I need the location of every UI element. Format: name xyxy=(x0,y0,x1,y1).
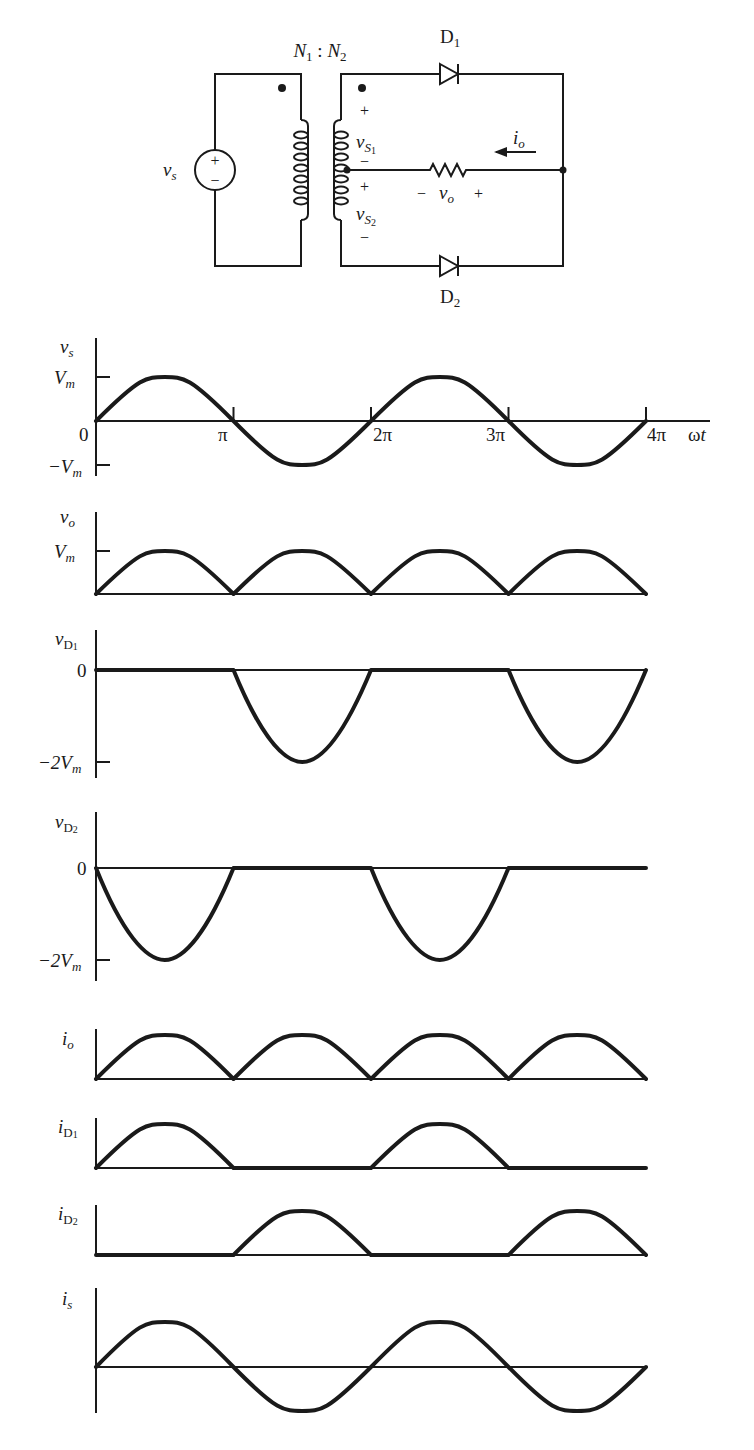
svg-text:0: 0 xyxy=(79,424,89,445)
vo-label: vo xyxy=(439,182,454,206)
tick-4pi: 4π xyxy=(647,424,667,445)
output-node xyxy=(560,167,567,174)
primary-top-wire xyxy=(215,74,301,150)
vo-plus: + xyxy=(474,185,483,202)
vo-waveform-plot: vo Vm xyxy=(54,506,646,594)
vd1-curve xyxy=(96,670,646,762)
svg-text:Vm: Vm xyxy=(54,541,75,565)
svg-text:is: is xyxy=(62,1288,72,1312)
svg-text:0: 0 xyxy=(77,660,87,681)
id2-waveform-plot: iD2 xyxy=(58,1203,646,1255)
vd1-waveform-plot: vD1 0 −2Vm xyxy=(38,628,646,778)
tick-pi: π xyxy=(218,424,228,445)
io-curve xyxy=(96,1035,646,1079)
id2-curve xyxy=(96,1211,646,1255)
svg-text:io: io xyxy=(62,1028,74,1052)
svg-text:−Vm: −Vm xyxy=(48,456,82,480)
turns-ratio-label: N1 : N2 xyxy=(292,40,346,64)
load-resistor-icon xyxy=(347,164,563,176)
io-waveform-plot: io xyxy=(62,1028,646,1079)
primary-bottom-wire xyxy=(215,190,301,266)
source-plus-sign: + xyxy=(210,152,219,169)
vs1-plus: + xyxy=(360,102,369,119)
secondary-polarity-dot xyxy=(358,84,366,92)
svg-text:iD2: iD2 xyxy=(58,1203,78,1227)
current-arrow-icon xyxy=(494,147,536,157)
diode-d2-label: D2 xyxy=(440,286,460,310)
ac-source-icon: + − xyxy=(195,150,235,190)
source-label: vs xyxy=(163,159,177,183)
x-axis-label: ωt xyxy=(688,424,707,445)
source-minus-sign: − xyxy=(210,172,219,189)
vs-waveform-plot: vs Vm 0 −Vm π 2π 3π 4π ωt xyxy=(48,336,710,480)
svg-text:vs: vs xyxy=(60,336,74,360)
vs2-minus: − xyxy=(360,229,369,246)
id1-curve xyxy=(96,1124,646,1168)
rectifier-figure: + − vs xyxy=(0,0,754,1450)
diode-d1-icon xyxy=(440,64,458,84)
svg-text:Vm: Vm xyxy=(54,367,75,391)
io-label: io xyxy=(513,127,525,151)
vo-curve xyxy=(96,551,646,594)
vd2-waveform-plot: vD2 0 −2Vm xyxy=(38,811,646,981)
vs2-label: vS2 xyxy=(356,203,376,228)
circuit-diagram: + − vs xyxy=(163,26,567,310)
svg-text:0: 0 xyxy=(77,858,87,879)
vd2-curve xyxy=(96,868,646,960)
secondary-bottom-wire xyxy=(341,220,440,266)
tick-2pi: 2π xyxy=(373,424,393,445)
primary-polarity-dot xyxy=(278,84,286,92)
primary-coil-icon xyxy=(294,120,308,220)
tick-3pi: 3π xyxy=(486,424,506,445)
is-waveform-plot: is xyxy=(62,1288,646,1413)
svg-text:vD1: vD1 xyxy=(55,628,78,652)
vs2-plus: + xyxy=(360,178,369,195)
svg-text:vo: vo xyxy=(60,506,75,530)
svg-text:vD2: vD2 xyxy=(55,811,78,835)
secondary-top-wire xyxy=(341,74,440,120)
svg-text:iD1: iD1 xyxy=(58,1116,78,1140)
id1-waveform-plot: iD1 xyxy=(58,1116,646,1168)
vs1-minus: − xyxy=(360,153,369,170)
diode-d2-icon xyxy=(440,256,458,276)
svg-text:−2Vm: −2Vm xyxy=(38,752,81,776)
vo-minus: − xyxy=(417,185,426,202)
diode-d1-label: D1 xyxy=(440,26,460,50)
svg-text:−2Vm: −2Vm xyxy=(38,950,81,974)
